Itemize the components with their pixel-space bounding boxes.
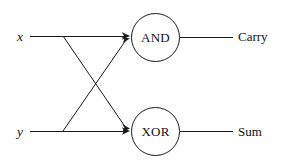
- input-label-x: x: [17, 30, 23, 44]
- input-label-y: y: [17, 125, 23, 139]
- wire-x-to-xor: [63, 36, 126, 128]
- and-input-arrow-lower-icon: [122, 37, 130, 43]
- output-label-carry: Carry: [238, 30, 268, 43]
- and-gate-label: AND: [141, 31, 170, 44]
- and-gate: AND: [131, 13, 180, 62]
- wire-y-to-and: [63, 40, 126, 131]
- half-adder-diagram: AND XOR x y Carry Sum: [0, 0, 285, 160]
- output-label-sum: Sum: [238, 125, 262, 138]
- xor-gate: XOR: [131, 107, 180, 156]
- xor-gate-label: XOR: [141, 125, 169, 138]
